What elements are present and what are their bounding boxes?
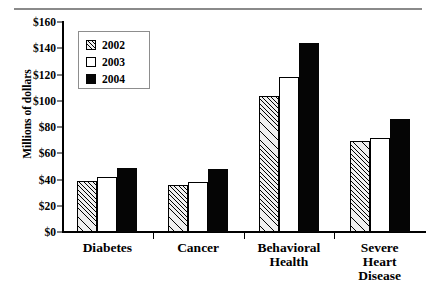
category-tick [244,233,245,239]
bar [188,182,208,232]
chart-legend: 200220032004 [78,31,150,89]
y-axis-tick-label: $100 [33,95,56,107]
legend-item: 2002 [86,37,149,53]
bar-group [350,22,410,232]
category-label-line: Behavioral [244,241,335,255]
bar [279,77,299,232]
y-axis-tick-label: $120 [33,69,56,81]
top-horizontal-rule [14,8,422,10]
y-axis-tick-label: $40 [39,174,56,186]
bar [259,96,279,233]
y-axis-title: Millions of dollars [21,39,33,189]
bar [168,185,188,232]
legend-item-label: 2002 [102,39,125,51]
category-label: SevereHeartDisease [334,241,425,282]
bar [299,43,319,232]
category-label: Diabetes [62,241,153,255]
y-axis-tick-label: $60 [39,147,56,159]
bar [350,141,370,232]
legend-swatch-icon [86,74,96,84]
y-axis-tick-label: $140 [33,42,56,54]
legend-swatch-icon [86,57,96,67]
bar-chart-figure: Millions of dollars $0$20$40$60$80$100$1… [0,0,437,299]
bar-group [259,22,319,232]
category-label-line: Health [244,255,335,269]
category-label-line: Heart [334,255,425,269]
y-axis-tick-label: $20 [39,200,56,212]
bar [97,177,117,232]
category-label-line: Diabetes [62,241,153,255]
bar [208,169,228,232]
category-tick [334,233,335,239]
bar [77,181,97,232]
legend-item: 2003 [86,54,149,70]
y-axis-tick-label: $0 [45,226,57,238]
category-label-line: Cancer [153,241,244,255]
legend-item-label: 2003 [102,56,125,68]
category-label: BehavioralHealth [244,241,335,269]
bar [390,119,410,232]
legend-swatch-icon [86,40,96,50]
legend-item-label: 2004 [102,73,125,85]
category-label-line: Severe [334,241,425,255]
category-label: Cancer [153,241,244,255]
category-tick [153,233,154,239]
legend-item: 2004 [86,71,149,87]
y-axis-tick-label: $160 [33,16,56,28]
bar-group [168,22,228,232]
category-label-line: Disease [334,269,425,283]
bar [117,168,137,232]
bar [370,138,390,233]
y-axis-tick-label: $80 [39,121,56,133]
